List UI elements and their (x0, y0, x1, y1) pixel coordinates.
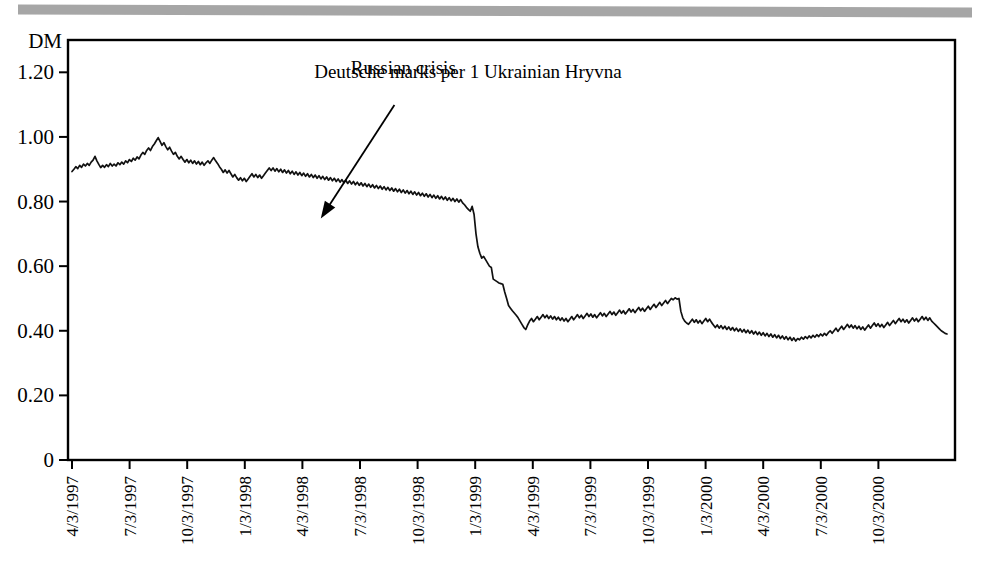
y-tick-label: 1.20 (17, 60, 54, 84)
x-tick-label: 4/3/2000 (754, 476, 773, 536)
y-tick-label: 0.40 (17, 319, 54, 343)
x-tick-label: 10/3/1997 (178, 476, 197, 545)
plot-border (68, 40, 955, 460)
x-axis-ticks (72, 460, 878, 469)
x-tick-label: 7/3/1997 (121, 476, 140, 537)
x-tick-label: 7/3/1998 (351, 476, 370, 536)
y-axis-ticks (59, 72, 68, 460)
x-axis-tick-labels: 4/3/19977/3/199710/3/19971/3/19984/3/199… (63, 476, 888, 545)
x-tick-label: 1/3/1999 (466, 476, 485, 536)
x-tick-label: 1/3/1998 (236, 476, 255, 536)
plot-frame (68, 40, 955, 460)
x-tick-label: 10/3/1999 (639, 476, 658, 545)
y-axis-unit-label: DM (28, 29, 62, 53)
line-chart: 00.200.400.600.801.001.20 DM 4/3/19977/3… (0, 0, 982, 568)
x-tick-label: 10/3/2000 (869, 476, 888, 545)
x-tick-label: 10/3/1998 (409, 476, 428, 545)
annotation-label: Russian crisis (351, 57, 456, 78)
y-tick-label: 0.60 (17, 254, 54, 278)
x-tick-label: 4/3/1998 (293, 476, 312, 536)
x-tick-label: 4/3/1999 (524, 476, 543, 536)
y-tick-label: 1.00 (17, 125, 54, 149)
x-tick-label: 4/3/1997 (63, 476, 82, 537)
x-tick-label: 7/3/1999 (581, 476, 600, 536)
figure-container: 00.200.400.600.801.001.20 DM 4/3/19977/3… (0, 0, 982, 568)
y-tick-label: 0.80 (17, 190, 54, 214)
y-axis-tick-labels: 00.200.400.600.801.001.20 (17, 60, 54, 472)
y-tick-label: 0.20 (17, 383, 54, 407)
x-tick-label: 7/3/2000 (812, 476, 831, 536)
x-tick-label: 1/3/2000 (697, 476, 716, 536)
y-tick-label: 0 (44, 448, 55, 472)
